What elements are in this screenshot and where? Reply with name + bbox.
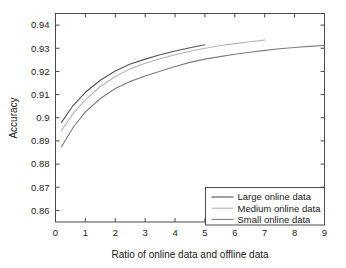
x-tick-label: 7	[262, 227, 267, 238]
chart-figure: 0.860.870.880.890.90.910.920.930.94 0123…	[0, 0, 346, 268]
x-tick-label: 6	[232, 227, 237, 238]
x-tick-label: 2	[113, 227, 118, 238]
x-tick-label: 8	[292, 227, 297, 238]
x-tick-label: 9	[322, 227, 327, 238]
x-tick-label: 1	[83, 227, 88, 238]
x-tick-label: 5	[202, 227, 207, 238]
x-axis-title: Ratio of online data and offline data	[111, 249, 269, 260]
y-tick-label: 0.87	[31, 182, 50, 193]
y-axis-title: Accuracy	[8, 97, 19, 138]
y-tick-label: 0.86	[31, 205, 50, 216]
y-tick-label: 0.94	[31, 19, 50, 30]
legend-label-2: Small online data	[238, 214, 312, 225]
series-line-0	[61, 45, 204, 123]
x-tick-label: 3	[143, 227, 148, 238]
y-tick-label: 0.93	[31, 43, 50, 54]
line-chart: 0.860.870.880.890.90.910.920.930.94 0123…	[0, 0, 346, 268]
x-tick-label: 4	[172, 227, 177, 238]
legend-label-0: Large online data	[238, 191, 312, 202]
data-series-group	[61, 40, 324, 147]
chart-legend[interactable]: Large online dataMedium online dataSmall…	[206, 188, 325, 226]
y-tick-label: 0.89	[31, 135, 50, 146]
legend-label-1: Medium online data	[238, 203, 322, 214]
y-tick-label: 0.91	[31, 89, 50, 100]
y-tick-label: 0.92	[31, 66, 50, 77]
series-line-2	[61, 45, 324, 146]
y-tick-label: 0.9	[36, 112, 49, 123]
x-tick-label: 0	[53, 227, 58, 238]
y-tick-label: 0.88	[31, 158, 50, 169]
